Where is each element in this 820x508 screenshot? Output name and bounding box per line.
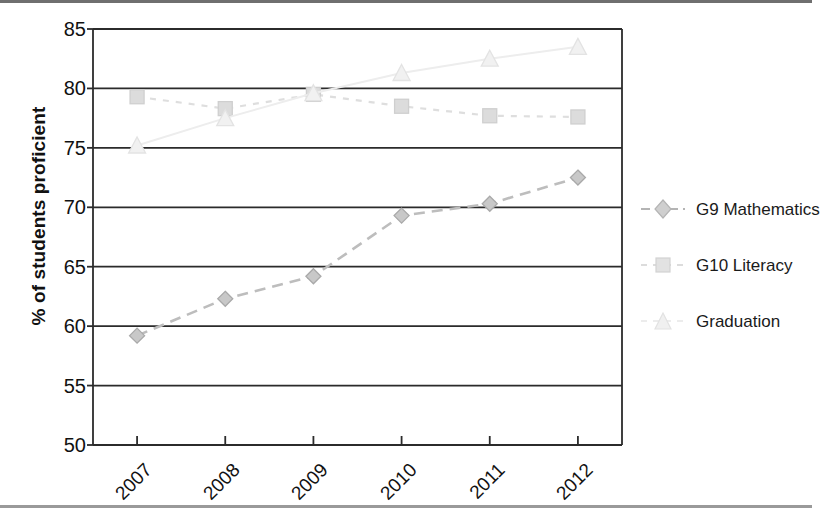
x-tick-label: 2008 bbox=[185, 459, 244, 508]
square-marker-icon bbox=[640, 252, 686, 278]
legend-label: Graduation bbox=[696, 313, 780, 330]
legend-item-graduation: Graduation bbox=[640, 308, 812, 334]
diamond-marker-icon bbox=[640, 196, 686, 222]
x-tick-label: 2010 bbox=[362, 459, 421, 508]
x-tick-label: 2012 bbox=[538, 459, 597, 508]
triangle-marker-icon bbox=[640, 308, 686, 334]
x-tick-label: 2007 bbox=[97, 459, 156, 508]
chart-legend: G9 Mathematics G10 Literacy Graduation bbox=[640, 196, 812, 364]
x-tick-label: 2009 bbox=[274, 459, 333, 508]
legend-label: G10 Literacy bbox=[696, 257, 792, 274]
x-tick-label: 2011 bbox=[450, 459, 509, 508]
legend-item-g10-literacy: G10 Literacy bbox=[640, 252, 812, 278]
legend-item-g9-mathematics: G9 Mathematics bbox=[640, 196, 812, 222]
legend-label: G9 Mathematics bbox=[696, 201, 820, 218]
